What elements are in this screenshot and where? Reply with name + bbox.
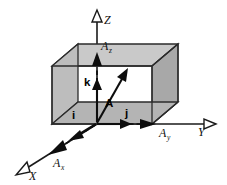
ay-label-base: A bbox=[158, 126, 167, 140]
k-unit-vector-label: k bbox=[84, 76, 91, 88]
a-vector-arrowhead-icon bbox=[117, 68, 128, 82]
vector-diagram-figure: Z Y X A z A y A x k j bbox=[0, 0, 227, 185]
az-component-label: A z bbox=[100, 39, 112, 55]
component-box-group bbox=[52, 44, 178, 124]
az-label-subscript: z bbox=[108, 46, 112, 55]
ax-label-subscript: x bbox=[60, 163, 65, 172]
x-axis-arrowhead-icon bbox=[16, 162, 30, 175]
j-unit-vector-label: j bbox=[124, 107, 128, 119]
z-axis-label: Z bbox=[104, 13, 111, 27]
k-unit-vector-arrowhead-icon bbox=[92, 78, 102, 90]
ax-component-label: A x bbox=[52, 156, 65, 172]
x-axis-label: X bbox=[28, 169, 37, 183]
a-vector-label: A bbox=[105, 97, 113, 109]
ax-component-arrowhead-icon bbox=[48, 140, 67, 155]
y-axis-arrowhead-icon bbox=[204, 119, 216, 129]
ax-label-base: A bbox=[52, 156, 61, 170]
az-label-base: A bbox=[100, 39, 109, 53]
vector-diagram-svg: Z Y X A z A y A x k j bbox=[0, 0, 227, 185]
axis-group bbox=[16, 10, 216, 175]
ay-label-subscript: y bbox=[166, 133, 171, 142]
z-axis-arrowhead-icon bbox=[92, 10, 102, 22]
ay-component-label: A y bbox=[158, 126, 171, 142]
i-unit-vector-label: i bbox=[72, 109, 75, 121]
